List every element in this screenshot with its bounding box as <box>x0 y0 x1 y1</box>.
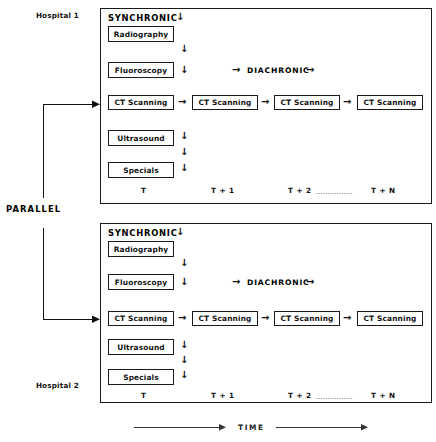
panel-1-modality-radiography[interactable]: Radiography <box>108 26 174 42</box>
panel-2-diachronic-heading: DIACHRONIC <box>247 278 310 287</box>
time-axis-left-arrowhead-icon <box>219 423 228 432</box>
panel-1-diachronic-heading: DIACHRONIC <box>247 66 310 75</box>
panel-1-modality-specials[interactable]: Specials <box>108 162 174 178</box>
panel-2-synchronic-heading: SYNCHRONIC <box>108 228 178 238</box>
panel-2-ct-scanning-1[interactable]: CT Scanning <box>192 311 258 326</box>
panel-1-tick-t1: T + 1 <box>211 186 234 195</box>
panel-1-diachronic-arrow-left-icon: → <box>232 65 240 75</box>
figure-canvas: Hospital 1 SYNCHRONIC ↓ Radiography ↓ Fl… <box>0 0 436 442</box>
panel-1-ct-scanning-0[interactable]: CT Scanning <box>108 95 174 110</box>
panel-1-tick-t: T <box>141 186 146 195</box>
panel-1-synchronic-arrow-icon: ↓ <box>176 12 184 22</box>
panel-1-tick-leader: ................ <box>316 187 353 196</box>
panel-2-arrow-down-3-icon: ↓ <box>180 340 188 350</box>
panel-2-ct-arrow-2-icon: → <box>343 313 351 323</box>
time-axis-left-line <box>134 427 222 428</box>
panel-1-ct-scanning-2[interactable]: CT Scanning <box>274 95 340 110</box>
panel-1-diachronic-arrow-right-icon: → <box>306 65 314 75</box>
panel-2-tick-t: T <box>141 391 146 400</box>
panel-1-ct-scanning-1[interactable]: CT Scanning <box>192 95 258 110</box>
panel-2-tick-t2: T + 2 <box>288 391 311 400</box>
panel-2-arrow-down-2-icon: ↓ <box>180 277 188 287</box>
panel-2-synchronic-arrow-icon: ↓ <box>176 227 184 237</box>
panel-2-modality-radiography[interactable]: Radiography <box>108 241 174 257</box>
panel-1-arrow-down-3-icon: ↓ <box>180 131 188 141</box>
time-axis-label: TIME <box>238 423 265 432</box>
panel-1-ct-arrow-0-icon: → <box>178 97 186 107</box>
time-axis-right-arrowhead-icon <box>361 423 370 432</box>
panel-2-arrow-down-5-icon: ↓ <box>180 370 188 380</box>
parallel-bracket-lower-vertical <box>43 228 44 320</box>
hospital-2-label: Hospital 2 <box>36 381 79 390</box>
panel-1-arrow-down-2-icon: ↓ <box>180 65 188 75</box>
panel-1-modality-ultrasound[interactable]: Ultrasound <box>108 130 174 146</box>
panel-2-modality-fluoroscopy[interactable]: Fluoroscopy <box>108 274 174 290</box>
panel-2-diachronic-arrow-left-icon: → <box>232 277 240 287</box>
panel-1-ct-arrow-1-icon: → <box>261 97 269 107</box>
time-axis-right-line <box>276 427 364 428</box>
panel-1-arrow-down-1-icon: ↓ <box>180 44 188 54</box>
panel-2-ct-scanning-0[interactable]: CT Scanning <box>108 311 174 326</box>
parallel-label: PARALLEL <box>6 204 61 214</box>
panel-1-tick-tn: T + N <box>371 186 395 195</box>
panel-2-tick-leader: ................ <box>316 392 353 401</box>
panel-1-arrow-down-4-icon: ↓ <box>180 147 188 157</box>
parallel-bracket-upper-arrowhead-icon <box>92 99 102 110</box>
hospital-1-label: Hospital 1 <box>36 11 79 20</box>
panel-2-ct-arrow-1-icon: → <box>261 313 269 323</box>
panel-2-ct-arrow-0-icon: → <box>178 313 186 323</box>
panel-2-arrow-down-4-icon: ↓ <box>180 355 188 365</box>
panel-1-ct-arrow-2-icon: → <box>343 97 351 107</box>
panel-2-tick-t1: T + 1 <box>211 391 234 400</box>
panel-1-synchronic-heading: SYNCHRONIC <box>108 13 178 23</box>
panel-2-arrow-down-1-icon: ↓ <box>180 258 188 268</box>
panel-1-ct-scanning-3[interactable]: CT Scanning <box>357 95 423 110</box>
parallel-bracket-lower-horizontal <box>43 319 98 320</box>
panel-2-modality-specials[interactable]: Specials <box>108 369 174 385</box>
panel-2-tick-tn: T + N <box>371 391 395 400</box>
parallel-bracket-upper-horizontal <box>43 104 98 105</box>
panel-1-tick-t2: T + 2 <box>288 186 311 195</box>
panel-2-modality-ultrasound[interactable]: Ultrasound <box>108 339 174 355</box>
panel-2-diachronic-arrow-right-icon: → <box>306 277 314 287</box>
panel-1-modality-fluoroscopy[interactable]: Fluoroscopy <box>108 62 174 78</box>
panel-2-ct-scanning-2[interactable]: CT Scanning <box>274 311 340 326</box>
panel-2-ct-scanning-3[interactable]: CT Scanning <box>357 311 423 326</box>
parallel-bracket-upper-vertical <box>43 104 44 198</box>
panel-1-arrow-down-5-icon: ↓ <box>180 163 188 173</box>
